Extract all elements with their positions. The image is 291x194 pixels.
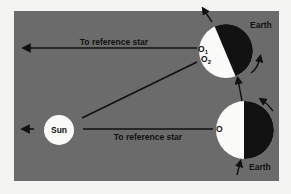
label-earth-top: Earth (250, 20, 272, 30)
label-bottom-ray: To reference star (114, 132, 183, 142)
label-point-o: O (216, 124, 223, 134)
sidereal-day-diagram: To reference star To reference star Sun … (0, 0, 291, 194)
label-earth-bottom: Earth (249, 162, 271, 172)
label-sun: Sun (51, 125, 67, 135)
label-top-ray: To reference star (80, 37, 149, 47)
